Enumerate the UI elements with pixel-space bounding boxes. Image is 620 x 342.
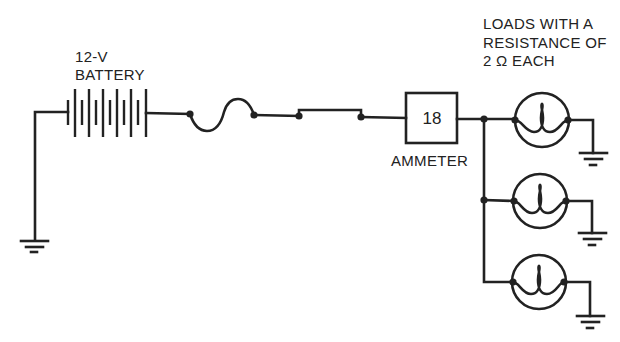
lamp-2-ground-wire bbox=[566, 201, 592, 233]
ground-icon bbox=[21, 241, 48, 252]
lamp-icon bbox=[510, 174, 569, 228]
loads-label-line1: LOADS WITH A bbox=[483, 15, 593, 32]
loads-label-line3: 2 Ω EACH bbox=[483, 52, 555, 69]
loads-label-line2: RESISTANCE OF bbox=[483, 34, 607, 51]
fuse-icon bbox=[186, 99, 257, 131]
wire-switch-to-ammeter bbox=[361, 117, 406, 118]
circuit-diagram: 12-V BATTERY bbox=[0, 0, 620, 342]
lamp-icon bbox=[511, 93, 571, 147]
lamp-3-ground-wire bbox=[564, 282, 590, 316]
ammeter-icon: 18 bbox=[406, 93, 457, 143]
ground-icon bbox=[577, 316, 604, 328]
battery-negative-wire bbox=[35, 112, 68, 240]
lamp-icon bbox=[509, 255, 567, 309]
ammeter-label: AMMETER bbox=[391, 152, 468, 169]
ground-icon bbox=[580, 153, 607, 165]
ground-icon bbox=[579, 233, 606, 245]
wire-fuse-to-switch bbox=[254, 115, 299, 116]
battery-icon bbox=[68, 89, 146, 137]
lamp-1-ground-wire bbox=[568, 120, 593, 153]
parallel-bus-wire bbox=[457, 115, 515, 282]
battery-label-voltage: 12-V bbox=[75, 48, 108, 65]
switch-icon bbox=[295, 110, 364, 121]
wire-battery-to-fuse bbox=[146, 113, 190, 114]
ammeter-reading: 18 bbox=[423, 109, 442, 128]
battery-label-name: BATTERY bbox=[75, 66, 145, 83]
